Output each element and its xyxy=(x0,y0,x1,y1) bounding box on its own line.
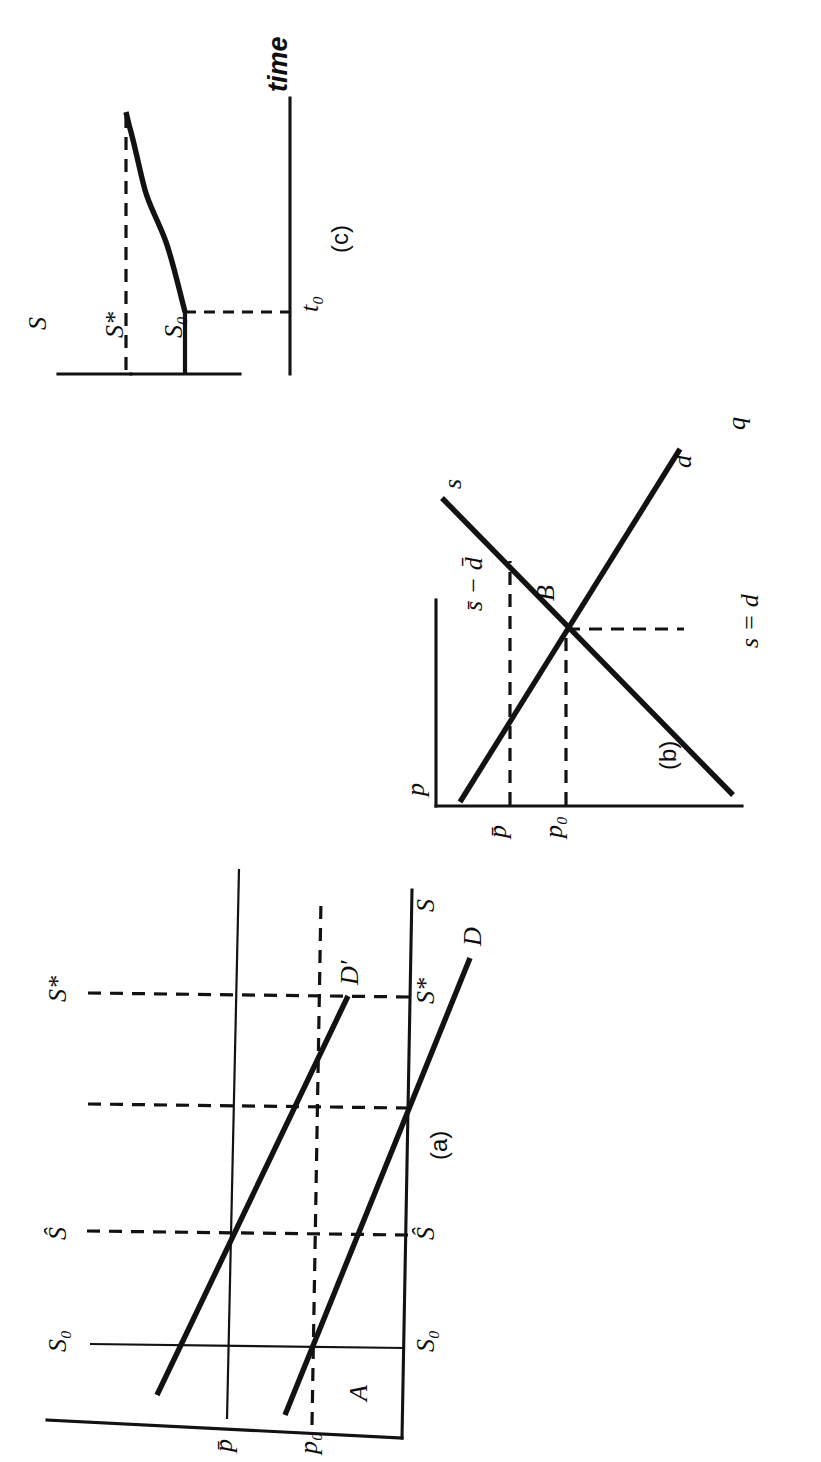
panel-a-left-tick-s0: S₀ xyxy=(43,1330,72,1352)
panel-a-demand-curve-d xyxy=(285,958,470,1415)
panel-c-s-axis-label: S xyxy=(23,317,52,330)
panel-a-s-axis xyxy=(402,890,412,1438)
panel-a-point-a-label: A xyxy=(344,1385,373,1403)
panel-c-time-axis-label: time xyxy=(263,36,293,92)
panel-c-tick-t0: t₀ xyxy=(295,296,324,312)
panel-b-tick-s-equals-d: s = d xyxy=(735,593,764,648)
panel-c-stock-path-curve xyxy=(126,112,185,312)
panel-c-tick-s-star: S* xyxy=(100,312,129,338)
panel-a-s-star-gridline xyxy=(88,993,410,997)
panel-b-caption: (b) xyxy=(654,741,681,770)
panel-a-axis-tick-s-hat: Ŝ xyxy=(411,1227,440,1240)
panel-a-p-bar-level-line xyxy=(227,869,239,1419)
panel-c-tick-s0: S₀ xyxy=(159,316,188,338)
panel-a-caption: (a) xyxy=(425,1131,452,1160)
panel-a-p-axis xyxy=(47,1420,402,1438)
panel-a-mid-gridline xyxy=(88,1104,409,1108)
panel-b-excess-supply-annotation: s̄ − d̄ xyxy=(459,556,488,611)
panel-a-axis-tick-s0: S₀ xyxy=(411,1330,440,1352)
panel-b-p-axis-label: p xyxy=(401,783,430,798)
panel-a-curve-label-d-prime: D′ xyxy=(335,960,364,986)
figure-root: S S* S₀ t₀ time (c) p s s̄ − d̄ B p̄ p₀ … xyxy=(0,0,821,1462)
economics-figure-svg: S S* S₀ t₀ time (c) p s s̄ − d̄ B p̄ p₀ … xyxy=(0,0,821,1462)
panel-a-s0-gridline xyxy=(90,1344,405,1348)
panel-b-supply-label: s xyxy=(438,479,467,489)
panel-a: A p̄ p₀ S₀ Ŝ S* S₀ Ŝ S* S D′ D (a) xyxy=(43,869,487,1456)
panel-b-equilibrium-point-label: B xyxy=(531,585,560,601)
panel-a-left-tick-s-star: S* xyxy=(43,976,72,1002)
panel-a-curve-label-d: D xyxy=(458,927,487,947)
panel-b-q-axis-label: q xyxy=(722,417,751,430)
panel-a-axis-tick-s-star: S* xyxy=(411,978,440,1004)
panel-a-tick-p-bar: p̄ xyxy=(209,1439,238,1454)
panel-a-tick-p0: p₀ xyxy=(294,1432,323,1456)
panel-c-caption: (c) xyxy=(326,225,353,253)
panel-b-tick-p-bar: p̄ xyxy=(483,825,512,840)
panel-c: S S* S₀ t₀ time (c) xyxy=(23,36,353,374)
panel-b-demand-label: d xyxy=(668,454,697,468)
panel-b: p s s̄ − d̄ B p̄ p₀ d q s = d (b) xyxy=(401,417,764,840)
panel-a-left-tick-s-hat: Ŝ xyxy=(43,1227,72,1240)
panel-b-demand-curve xyxy=(442,498,733,795)
panel-a-s-axis-label: S xyxy=(411,899,440,912)
panel-b-tick-p0: p₀ xyxy=(539,816,568,840)
